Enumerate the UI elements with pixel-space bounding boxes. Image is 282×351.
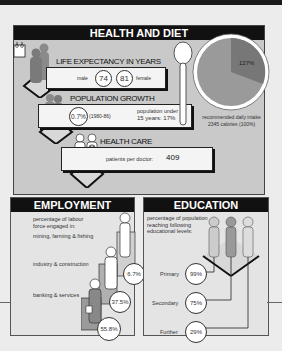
education-level-label: Further [160,329,178,336]
sector-label: banking & services [33,292,79,299]
life-expectancy-box: male 74 81 female [46,67,166,89]
education-level-label: Primary [160,271,179,278]
education-level-value: 99% [185,263,207,285]
sector-value: 55.8% [97,317,121,341]
diet-pie-chart [191,32,271,112]
education-tree-icon [199,216,267,334]
patients-per-doctor-label: patients per doctor: [106,156,153,162]
health-care-box: patients per doctor: 409 [61,147,213,171]
female-life-expectancy: 81 [116,70,133,87]
population-growth-label: POPULATION GROWTH [70,94,155,103]
diet-caption-1: recommended daily intake [189,114,274,120]
female-label: female [136,75,151,81]
education-panel: EDUCATION percentage of population reach… [143,197,269,336]
education-title: EDUCATION [144,198,268,212]
education-level-value: 29% [185,321,207,343]
life-expectancy-label: LIFE EXPECTANCY IN YEARS [56,57,161,66]
employment-panel: EMPLOYMENT percentage of labour force en… [10,197,135,336]
population-growth-box: 0.7% (1980-86) population under 15 years… [38,104,192,128]
employment-title: EMPLOYMENT [11,198,134,212]
sector-value: 6.7% [123,263,145,285]
health-diet-panel: HEALTH AND DIET LIFE EXPECTANCY IN YEARS… [13,25,265,195]
sector-value: 37.5% [109,291,131,313]
divider [267,302,282,303]
male-label: male [77,75,88,81]
diet-caption-2: 2345 calories (100%) [189,121,274,127]
growth-period: (1980-86) [89,113,111,119]
under15-value: 15 years: 17% [137,115,175,121]
health-care-label: HEALTH CARE [100,137,152,146]
divider [0,302,10,303]
growth-rate: 0.7% [69,107,88,126]
patients-per-doctor-value: 409 [166,153,179,162]
education-level-value: 75% [185,292,207,314]
pie-value: 127% [239,60,254,66]
top-bar [0,0,282,5]
male-life-expectancy: 74 [95,70,112,87]
education-level-label: Secondary [152,300,178,307]
